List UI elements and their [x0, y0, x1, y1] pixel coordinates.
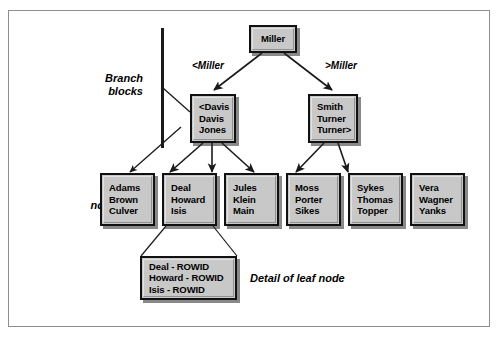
leaf-2-line-3: Isis	[171, 205, 186, 217]
leaf-5-line-3: Topper	[357, 205, 388, 217]
detail-line-3: Isis - ROWID	[149, 284, 205, 296]
branch-right-line-3: Turner>	[317, 124, 351, 136]
edge-leaf-2-to-detail-left	[141, 226, 166, 256]
branch-left-line-1: <Davis	[199, 101, 229, 113]
leaf-node-1[interactable]: Adams Brown Culver	[100, 173, 155, 226]
detail-caption: Detail of leaf node	[250, 272, 345, 285]
branch-left-line-3: Jones	[199, 124, 226, 136]
edge-branch-right-to-leaf-5	[338, 143, 348, 172]
branch-block-left[interactable]: <Davis Davis Jones	[190, 94, 236, 143]
leaf-6-line-3: Yanks	[419, 205, 446, 217]
leaf-4-line-2: Porter	[295, 194, 322, 206]
leaf-3-line-2: Klein	[233, 194, 256, 206]
leaf-6-line-2: Wagner	[419, 194, 453, 206]
edge-leaf-2-to-detail-right	[213, 226, 237, 256]
leaf-4-line-3: Sikes	[295, 205, 319, 217]
leaf-node-2[interactable]: Deal Howard Isis	[162, 173, 217, 226]
leaf-1-line-3: Culver	[109, 205, 138, 217]
leaf-2-line-1: Deal	[171, 182, 191, 194]
root-node-line-1: Miller	[261, 33, 285, 45]
pointer-branch-blocks	[163, 88, 190, 112]
edge-branch-left-to-leaf-1	[170, 143, 203, 172]
leaf-node-5[interactable]: Sykes Thomas Topper	[348, 173, 403, 226]
detail-line-2: Howard - ROWID	[149, 272, 224, 284]
edge-branch-left-to-leaf-3	[222, 143, 254, 172]
leaf-3-line-1: Jules	[233, 182, 257, 194]
leaf-2-line-2: Howard	[171, 194, 205, 206]
branch-left-line-2: Davis	[199, 113, 224, 125]
branch-blocks-label-line-2: blocks	[108, 85, 143, 97]
diagram-canvas: Branch blocks Leaf nodes <Miller >Miller…	[0, 0, 500, 338]
detail-line-1: Deal - ROWID	[149, 261, 209, 273]
edge-branch-right-to-leaf-4	[296, 143, 324, 172]
leaf-5-line-1: Sykes	[357, 182, 384, 194]
leaf-1-line-1: Adams	[109, 182, 140, 194]
pointer-leaf-nodes	[130, 127, 181, 172]
leaf-node-4[interactable]: Moss Porter Sikes	[286, 173, 341, 226]
branch-blocks-label: Branch blocks	[58, 72, 143, 98]
root-node-miller[interactable]: Miller	[249, 25, 297, 53]
leaf-4-line-1: Moss	[295, 182, 319, 194]
edge-label-less-than-miller: <Miller	[192, 60, 224, 72]
branch-blocks-label-line-1: Branch	[105, 72, 143, 84]
edge-label-greater-than-miller: >Miller	[325, 60, 357, 72]
leaf-detail-box[interactable]: Deal - ROWID Howard - ROWID Isis - ROWID	[140, 256, 237, 300]
branch-right-line-1: Smith	[317, 101, 343, 113]
branch-blocks-bracket	[161, 28, 164, 148]
leaf-5-line-2: Thomas	[357, 194, 393, 206]
branch-block-right[interactable]: Smith Turner Turner>	[308, 94, 358, 143]
leaf-6-line-1: Vera	[419, 182, 439, 194]
leaf-node-6[interactable]: Vera Wagner Yanks	[410, 173, 465, 226]
leaf-3-line-3: Main	[233, 205, 254, 217]
leaf-1-line-2: Brown	[109, 194, 138, 206]
branch-right-line-2: Turner	[317, 113, 346, 125]
leaf-node-3[interactable]: Jules Klein Main	[224, 173, 279, 226]
